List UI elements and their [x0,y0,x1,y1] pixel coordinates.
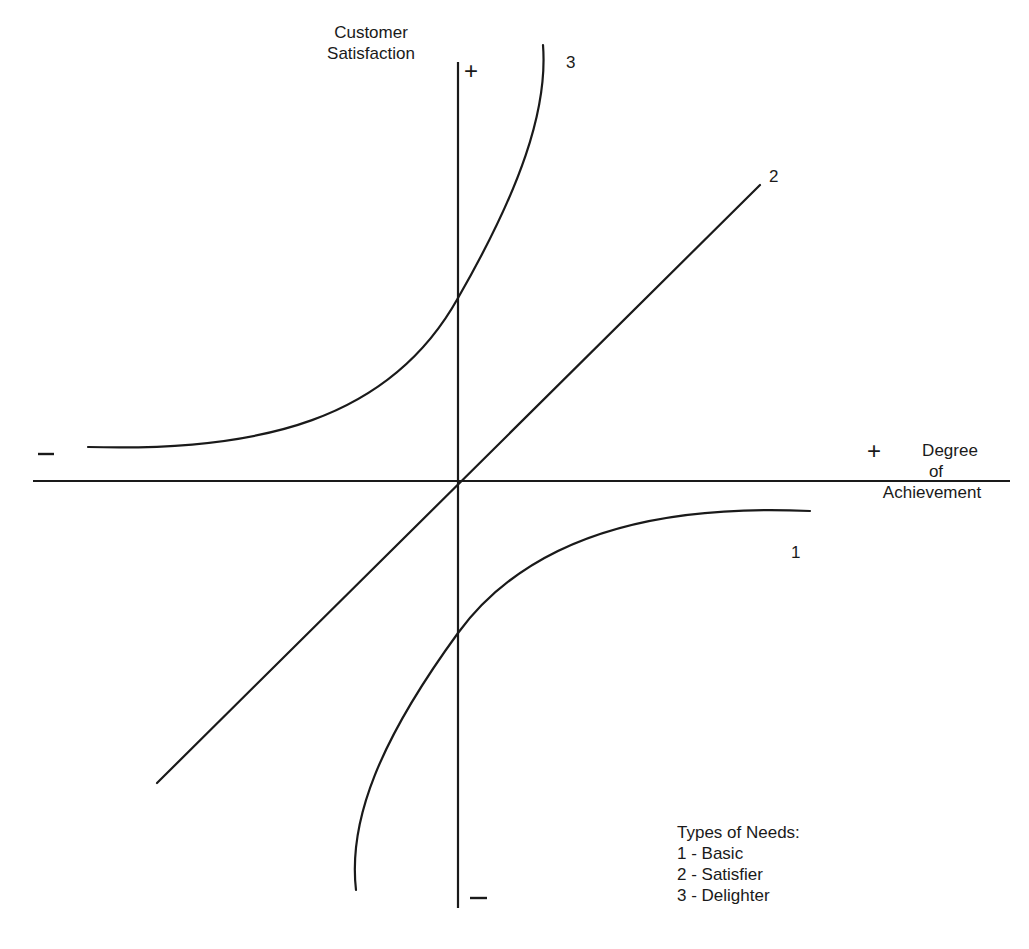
legend-item-delighter: 3 - Delighter [677,885,800,906]
legend-title: Types of Needs: [677,822,800,843]
y-axis-label: Customer Satisfaction [318,22,424,64]
legend: Types of Needs: 1 - Basic 2 - Satisfier … [677,822,800,906]
y-axis-positive-sign: + [464,59,478,83]
y-axis-label-line2: Satisfaction [318,43,424,64]
legend-item-satisfier: 2 - Satisfier [677,864,800,885]
curve-3-delighter [88,45,544,447]
curve-1-label: 1 [791,542,800,563]
x-axis-label-line2: of [866,461,998,482]
legend-item-basic: 1 - Basic [677,843,800,864]
x-axis-label: Degree of Achievement [866,440,998,503]
x-axis-label-line3: Achievement [866,482,998,503]
curve-3-label: 3 [566,52,575,73]
y-axis-label-line1: Customer [318,22,424,43]
x-axis-label-line1: Degree [866,440,998,461]
curve-2-label: 2 [769,166,778,187]
